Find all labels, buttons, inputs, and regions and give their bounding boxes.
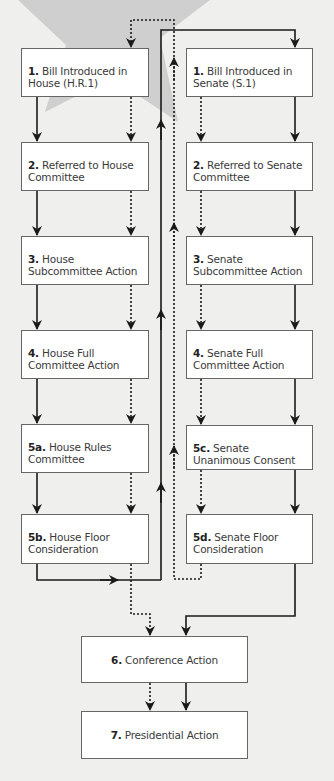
- step-label: Bill Introduced in House (H.R.1): [28, 65, 127, 89]
- step-number: 4.: [193, 347, 204, 359]
- step-number: 5d.: [193, 531, 211, 543]
- senate-step-3: 3. Senate Subcommittee Action: [186, 236, 313, 285]
- house-step-1: 1. Bill Introduced in House (H.R.1): [21, 48, 149, 97]
- house-solid-arrows: [37, 30, 295, 580]
- step-label: Conference Action: [125, 654, 218, 666]
- step-label: Presidential Action: [125, 729, 219, 741]
- step-label: Bill Introduced in Senate (S.1): [193, 65, 292, 89]
- step-label: Senate Subcommittee Action: [193, 253, 302, 277]
- step-number: 4.: [28, 347, 39, 359]
- step-number: 5a.: [28, 441, 46, 453]
- house-step-2: 2. Referred to House Committee: [21, 142, 149, 191]
- step-label: Referred to Senate Committee: [193, 159, 302, 183]
- step-number: 2.: [28, 159, 39, 171]
- step-label: Referred to House Committee: [28, 159, 134, 183]
- house-step-3: 3. House Subcommittee Action: [21, 236, 149, 285]
- step-label: House Subcommittee Action: [28, 253, 137, 277]
- step-number: 2.: [193, 159, 204, 171]
- step-number: 3.: [28, 253, 39, 265]
- step-number: 5c.: [193, 442, 210, 454]
- presidential-action-step: 7. Presidential Action: [81, 711, 248, 759]
- house-step-5a: 5a. House Rules Committee: [21, 424, 149, 473]
- step-number: 1.: [28, 65, 39, 77]
- senate-step-5c: 5c. Senate Unanimous Consent: [186, 425, 313, 470]
- senate-step-1: 1. Bill Introduced in Senate (S.1): [186, 48, 313, 97]
- conference-action-step: 6. Conference Action: [81, 636, 248, 683]
- step-label: House Full Committee Action: [28, 347, 119, 371]
- step-number: 6.: [111, 654, 122, 666]
- step-number: 5b.: [28, 531, 46, 543]
- house-step-5b: 5b. House Floor Consideration: [21, 514, 149, 564]
- step-number: 3.: [193, 253, 204, 265]
- step-number: 1.: [193, 65, 204, 77]
- senate-step-4: 4. Senate Full Committee Action: [186, 330, 313, 379]
- senate-step-5d: 5d. Senate Floor Consideration: [186, 514, 313, 564]
- senate-step-2: 2. Referred to Senate Committee: [186, 142, 313, 191]
- house-step-4: 4. House Full Committee Action: [21, 330, 149, 379]
- step-label: Senate Full Committee Action: [193, 347, 284, 371]
- step-number: 7.: [111, 729, 122, 741]
